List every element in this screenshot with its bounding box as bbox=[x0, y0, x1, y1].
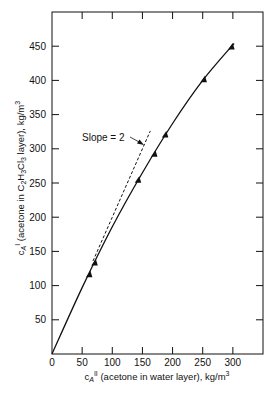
chart: 0501001502002503005010015020025030035040… bbox=[0, 0, 277, 398]
axis-ticks bbox=[52, 12, 263, 354]
slope-tangent-line bbox=[93, 131, 150, 261]
triangle-marker-icon bbox=[151, 150, 158, 157]
y-tick-label: 200 bbox=[29, 212, 46, 223]
arrowhead-icon bbox=[137, 140, 144, 146]
x-tick-label: 150 bbox=[134, 357, 151, 368]
x-tick-label: 100 bbox=[104, 357, 121, 368]
y-tick-label: 50 bbox=[35, 314, 47, 325]
slope-label: Slope = 2 bbox=[82, 132, 125, 143]
x-tick-label: 200 bbox=[164, 357, 181, 368]
triangle-marker-icon bbox=[91, 259, 98, 266]
x-tick-label: 300 bbox=[225, 357, 242, 368]
x-tick-label: 50 bbox=[77, 357, 89, 368]
x-axis-label: cAII (acetone in water layer), kg/m3 bbox=[85, 370, 230, 383]
equilibrium-curve bbox=[52, 43, 234, 354]
y-tick-label: 150 bbox=[29, 246, 46, 257]
y-tick-label: 400 bbox=[29, 75, 46, 86]
y-tick-label: 100 bbox=[29, 280, 46, 291]
y-tick-label: 300 bbox=[29, 143, 46, 154]
y-tick-label: 350 bbox=[29, 109, 46, 120]
plot-frame bbox=[52, 12, 263, 354]
data-series bbox=[52, 43, 235, 354]
y-axis-label: cAI (acetone in C2H3Cl3 layer), kg/m3 bbox=[14, 101, 27, 255]
tick-labels: 0501001502002503005010015020025030035040… bbox=[29, 41, 241, 368]
slope-annotation: Slope = 2 bbox=[82, 132, 144, 145]
y-tick-label: 250 bbox=[29, 178, 46, 189]
x-tick-label: 0 bbox=[49, 357, 55, 368]
y-tick-label: 450 bbox=[29, 41, 46, 52]
x-tick-label: 250 bbox=[194, 357, 211, 368]
